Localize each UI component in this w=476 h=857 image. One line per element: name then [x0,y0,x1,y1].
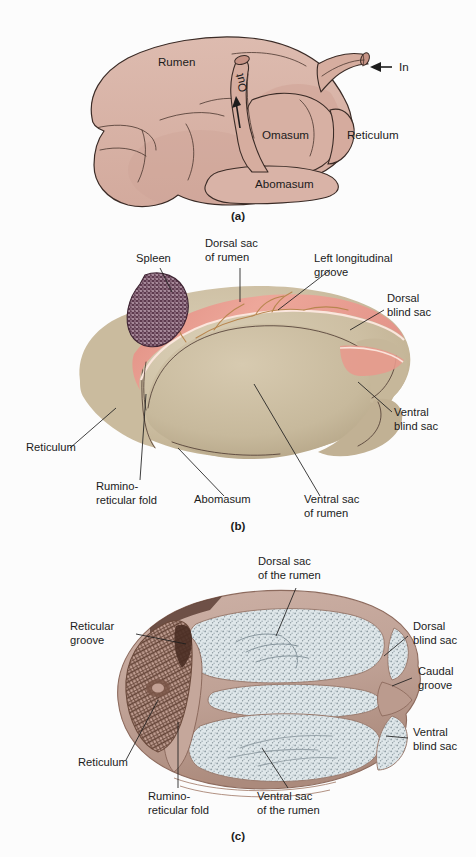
panel-b-dorsal-view: Spleen Dorsal sac of rumen Left longitud… [0,230,476,540]
panel-c-drawing [110,590,420,796]
panel-b-drawing [79,273,410,459]
in-arrow [370,62,392,72]
label-dorsal-sac-of-the-rumen-c: Dorsal sac of the rumen [258,555,321,581]
label-reticulum-a: Reticulum [347,128,399,141]
label-abomasum-a: Abomasum [255,177,314,190]
label-rumen-a: Rumen [158,55,195,68]
label-dorsal-blind-sac-b: Dorsal blind sac [387,292,432,318]
label-rumino-reticular-fold-c: Rumino- reticular fold [148,790,209,816]
label-caudal-groove-c: Caudal groove [418,665,457,691]
label-ventral-sac-of-rumen-b: Ventral sac of rumen [304,493,362,519]
label-dorsal-blind-sac-c: Dorsal blind sac [413,620,458,646]
label-omasum-a: Omasum [262,128,309,141]
label-spleen-b: Spleen [136,252,171,264]
panel-a-drawing [91,37,392,210]
label-reticular-groove-c: Reticular groove [70,620,117,646]
label-dorsal-sac-of-rumen-b: Dorsal sac of rumen [205,237,261,263]
dorsal-sac-cavity-c [187,609,384,683]
panel-letter-a: (a) [231,209,245,222]
label-ventral-blind-sac-c: Ventral blind sac [413,726,458,752]
label-left-longitudinal-groove-b: Left longitudinal groove [314,252,395,278]
panel-letter-c: (c) [231,829,245,842]
label-abomasum-b: Abomasum [194,493,251,505]
ventral-sac-cavity-c [189,714,381,782]
panel-c-sagittal-section: Dorsal sac of the rumen Reticular groove… [0,540,476,857]
label-in-a: In [399,60,409,73]
label-ventral-sac-of-the-rumen-c: Ventral sac of the rumen [257,790,320,816]
label-rumino-reticular-fold-b: Rumino- reticular fold [96,480,157,506]
panel-letter-b: (b) [231,519,246,532]
label-reticulum-b: Reticulum [26,441,76,453]
panel-a-external-view: Rumen Out In Omasum Reticulum Abomasum (… [0,0,476,230]
label-reticulum-c: Reticulum [78,756,128,768]
figure-ruminant-stomach: Rumen Out In Omasum Reticulum Abomasum (… [0,0,476,857]
